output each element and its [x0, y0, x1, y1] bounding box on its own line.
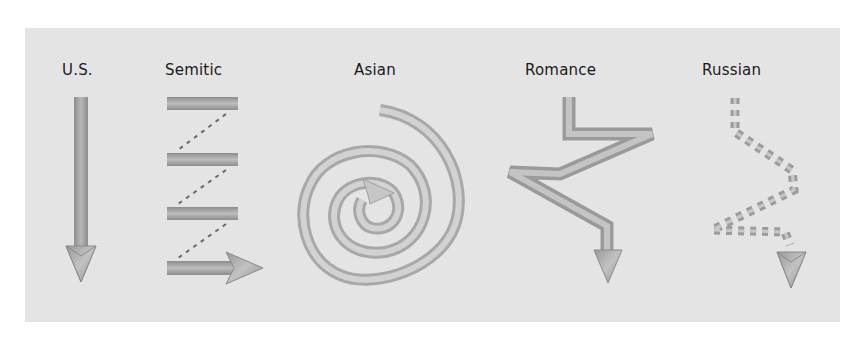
us-down-arrow-icon — [66, 97, 96, 282]
romance-pattern-icon — [510, 97, 652, 283]
diagram-art — [0, 0, 865, 340]
semitic-pattern-icon — [167, 97, 263, 284]
russian-pattern-icon — [712, 98, 806, 288]
asian-spiral-icon — [303, 110, 459, 280]
